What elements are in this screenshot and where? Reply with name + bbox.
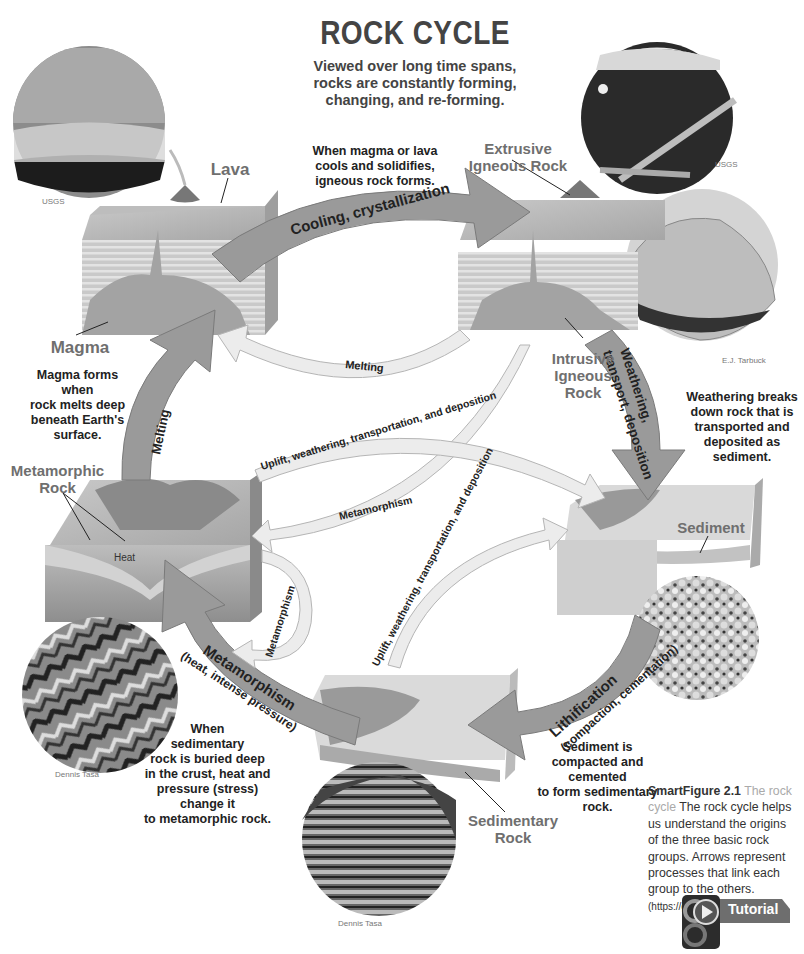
lava-pointer bbox=[221, 178, 228, 203]
tutorial-button[interactable]: Tutorial bbox=[682, 895, 790, 949]
weathering-note: Weathering breaks down rock that is tran… bbox=[680, 390, 804, 465]
credit-gneiss: Dennis Tasa bbox=[55, 770, 99, 779]
credit-canyon: Dennis Tasa bbox=[338, 919, 382, 928]
heat-label: Heat bbox=[114, 552, 135, 563]
canyon-photo bbox=[302, 762, 456, 916]
extrusive-igneous-label: Extrusive Igneous Rock bbox=[458, 140, 578, 174]
credit-lava: USGS bbox=[42, 197, 65, 206]
magma-note: Magma forms when rock melts deep beneath… bbox=[20, 368, 135, 443]
credit-extrusive: USGS bbox=[715, 160, 738, 169]
lava-label: Lava bbox=[205, 160, 255, 179]
intrusive-igneous-label: Intrusive Igneous Rock bbox=[548, 350, 618, 401]
metamorphic-note: When sedimentary rock is buried deep in … bbox=[135, 722, 280, 827]
melting-arrow bbox=[122, 310, 215, 480]
figure-body: The rock cycle helps us understand the o… bbox=[648, 800, 791, 896]
lava-photo bbox=[13, 46, 165, 198]
credit-granite: E.J. Tarbuck bbox=[722, 356, 766, 365]
extrusive-photo bbox=[581, 42, 735, 194]
magma-label: Magma bbox=[40, 338, 120, 357]
figure-number: SmartFigure 2.1 bbox=[648, 784, 741, 798]
uplift-upper-label: Uplift, weathering, transportation, and … bbox=[259, 389, 497, 472]
cooling-note: When magma or lava cools and solidifies,… bbox=[300, 144, 450, 189]
sediment-label: Sediment bbox=[672, 518, 750, 537]
sedimentary-rock-label: Sedimentary Rock bbox=[468, 812, 558, 846]
metamorphic-rock-label: Metamorphic Rock bbox=[10, 462, 105, 496]
tutorial-label: Tutorial bbox=[728, 901, 778, 917]
